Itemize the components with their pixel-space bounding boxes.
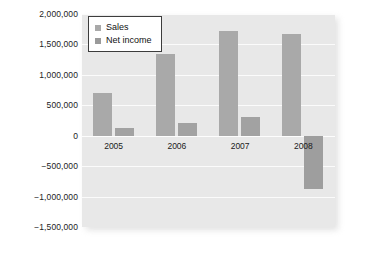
legend-label-sales: Sales [106, 23, 129, 32]
y-axis-tick-label: 1,000,000 [0, 71, 78, 80]
bar-chart-figure: 2,000,0001,500,0001,000,000500,0000−500,… [0, 0, 367, 254]
bar-sales-2005 [93, 93, 112, 136]
y-axis: 2,000,0001,500,0001,000,000500,0000−500,… [0, 14, 78, 227]
y-axis-tick-label: 1,500,000 [0, 40, 78, 49]
x-axis-tick-label-2005: 2005 [91, 142, 137, 151]
chart-legend: Sales Net income [88, 16, 162, 52]
x-axis-tick-label-2007: 2007 [217, 142, 263, 151]
legend-item-net-income: Net income [95, 34, 152, 47]
gridline [82, 14, 335, 15]
legend-swatch-net-income [95, 38, 101, 44]
bar-sales-2006 [156, 54, 175, 136]
bar-net-income-2007 [241, 117, 260, 136]
y-axis-tick-label: 0 [0, 132, 78, 141]
legend-swatch-sales [95, 25, 101, 31]
gridline [82, 197, 335, 198]
gridline [82, 166, 335, 167]
legend-item-sales: Sales [95, 21, 152, 34]
bar-net-income-2005 [115, 128, 134, 136]
legend-label-net-income: Net income [106, 36, 152, 45]
bar-sales-2007 [219, 31, 238, 136]
y-axis-tick-label: −500,000 [0, 162, 78, 171]
y-axis-tick-label: 500,000 [0, 101, 78, 110]
bar-sales-2008 [282, 34, 301, 136]
y-axis-tick-label: −1,500,000 [0, 223, 78, 232]
bar-net-income-2006 [178, 123, 197, 136]
y-axis-tick-label: −1,000,000 [0, 193, 78, 202]
zero-gridline [82, 136, 335, 137]
x-axis-tick-label-2006: 2006 [154, 142, 200, 151]
x-axis-tick-label-2008: 2008 [280, 142, 326, 151]
y-axis-tick-label: 2,000,000 [0, 10, 78, 19]
